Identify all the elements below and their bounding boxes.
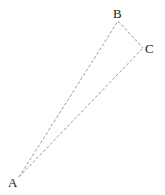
triangle-diagram: A B C — [0, 0, 165, 195]
vertex-label-c: C — [145, 41, 154, 56]
vertex-label-a: A — [8, 175, 18, 190]
edge-a-b — [19, 21, 118, 177]
edge-b-c — [118, 21, 143, 48]
vertex-label-b: B — [113, 6, 122, 21]
edge-a-c — [19, 48, 143, 177]
